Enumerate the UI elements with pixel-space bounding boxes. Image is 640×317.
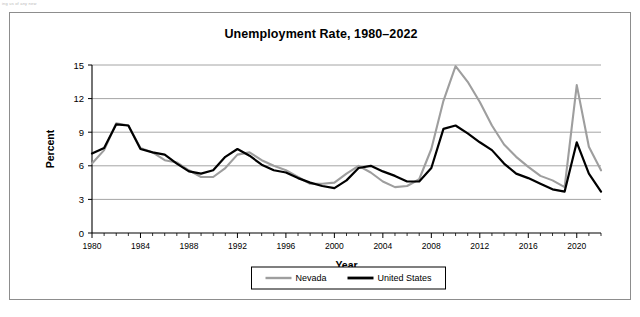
x-tick-label-2000: 2000 bbox=[325, 241, 344, 251]
screenshot-root: ing us of any new Unemployment Rate, 198… bbox=[0, 0, 640, 317]
y-axis-title: Percent bbox=[44, 129, 56, 168]
y-tick-labels-group: 03691215 bbox=[73, 60, 84, 239]
chart-legend: NevadaUnited States bbox=[252, 267, 446, 289]
series-line-nevada bbox=[92, 66, 601, 187]
x-tick-label-1980: 1980 bbox=[83, 241, 102, 251]
scan-artifact-text: ing us of any new bbox=[2, 1, 37, 6]
y-tick-label-0: 0 bbox=[79, 228, 84, 239]
x-tick-label-1996: 1996 bbox=[276, 241, 295, 251]
series-line-united-states bbox=[92, 124, 601, 191]
figure-container: Unemployment Rate, 1980–2022 03691215 19… bbox=[9, 12, 631, 300]
y-tick-label-3: 3 bbox=[79, 194, 84, 205]
x-tick-label-2004: 2004 bbox=[373, 241, 392, 251]
data-series-group bbox=[92, 66, 601, 191]
x-tick-label-2016: 2016 bbox=[519, 241, 538, 251]
legend-label-nevada: Nevada bbox=[296, 273, 327, 283]
x-tick-labels-group: 1980198419881992199620002004200820122016… bbox=[83, 241, 587, 251]
y-tick-label-12: 12 bbox=[73, 93, 84, 104]
x-tick-label-2008: 2008 bbox=[422, 241, 441, 251]
legend-label-united-states: United States bbox=[378, 273, 433, 283]
line-chart: 03691215 1980198419881992199620002004200… bbox=[10, 13, 632, 301]
plot-area: 03691215 1980198419881992199620002004200… bbox=[10, 13, 632, 301]
y-tick-label-9: 9 bbox=[79, 127, 84, 138]
y-tick-label-15: 15 bbox=[73, 60, 84, 71]
y-tick-label-6: 6 bbox=[79, 160, 84, 171]
axis-ticks-group bbox=[88, 65, 601, 238]
x-tick-label-1984: 1984 bbox=[131, 241, 150, 251]
x-tick-label-1992: 1992 bbox=[228, 241, 247, 251]
x-tick-label-2020: 2020 bbox=[567, 241, 586, 251]
x-tick-label-1988: 1988 bbox=[179, 241, 198, 251]
x-tick-label-2012: 2012 bbox=[470, 241, 489, 251]
axes-group bbox=[92, 65, 601, 233]
